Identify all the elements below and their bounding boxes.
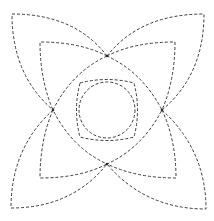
outer-petal-bottom-left bbox=[11, 110, 107, 208]
vertex-top bbox=[106, 55, 109, 58]
vertex-left bbox=[52, 109, 55, 112]
outer-petal-bottom-right bbox=[107, 110, 206, 209]
outer-petal-top-right bbox=[107, 14, 204, 110]
inner-petal-top-right bbox=[107, 42, 175, 110]
vertex-right bbox=[161, 109, 164, 112]
curved-diamond bbox=[53, 56, 162, 164]
inner-petal-bottom-left bbox=[40, 110, 107, 178]
central-circle bbox=[79, 82, 135, 138]
outer-petal-top-left bbox=[12, 14, 107, 110]
inner-petal-bottom-right bbox=[107, 110, 176, 178]
inner-petal-top-left bbox=[40, 42, 107, 110]
flower-diagram bbox=[0, 0, 214, 221]
vertex-bottom bbox=[106, 163, 109, 166]
rounded-square bbox=[77, 80, 138, 141]
